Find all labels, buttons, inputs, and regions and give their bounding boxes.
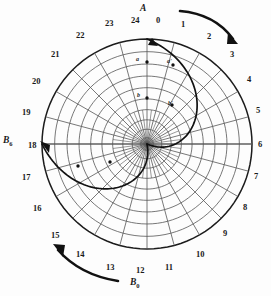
figure-canvas: aa'bb'0123456789101112131415161718192021… [0,0,271,296]
hour-label-23: 23 [105,19,114,28]
hour-label-12: 12 [136,266,145,275]
grid-spoke-15 [73,144,147,218]
hour-label-20: 20 [32,77,41,86]
point-label-b: b [137,92,140,98]
grid-spoke-13 [120,144,147,245]
label-A: A [140,4,146,14]
grid-spoke-23 [120,43,147,144]
grid-spoke-9 [147,144,221,218]
grid-spoke-11 [147,144,174,245]
hour-label-3: 3 [230,50,234,59]
hour-label-10: 10 [196,250,205,259]
hour-label-11: 11 [165,263,173,272]
outer-arrow-top-right-head [227,32,238,44]
hour-label-14: 14 [76,250,85,259]
spiral-left-point-1 [76,164,79,167]
grid-spoke-8 [147,144,238,197]
outer-arrow-bottom-left-head [53,244,65,257]
hour-label-18: 18 [28,141,37,150]
hour-label-6: 6 [258,140,262,149]
hour-label-5: 5 [256,106,260,115]
polar-diagram-svg [0,0,271,296]
point-marker-a [145,60,148,63]
spiral-arm-left [42,144,148,189]
hour-label-13: 13 [106,263,115,272]
hour-label-9: 9 [223,229,227,238]
hour-label-0: 0 [156,16,160,25]
grid-spoke-4 [147,92,238,145]
label-B6: B6 [3,136,13,147]
label-B6-sub: 6 [9,140,12,147]
hour-label-21: 21 [51,50,60,59]
hour-label-16: 16 [33,204,42,213]
hour-label-8: 8 [243,203,247,212]
grid-spoke-19 [46,117,147,144]
grid-spoke-5 [147,117,248,144]
hour-label-2: 2 [207,32,211,41]
point-marker-b [145,96,148,99]
point-label-a: a [136,56,139,62]
spiral-left-point-2 [108,160,111,163]
grid-spoke-7 [147,144,248,171]
hour-label-17: 17 [22,173,31,182]
hour-label-22: 22 [76,31,85,40]
hour-label-19: 19 [22,108,31,117]
grid-spoke-2 [147,53,200,144]
grid-spoke-3 [147,70,221,144]
grid-spoke-22 [95,53,148,144]
hour-label-1: 1 [181,20,185,29]
hour-label-7: 7 [254,172,258,181]
grid-spoke-21 [73,70,147,144]
hour-label-15: 15 [51,231,60,240]
label-B0: B0 [130,278,140,289]
point-label-aprime: a' [167,58,172,64]
grid-spoke-10 [147,144,200,235]
grid-spoke-17 [46,144,147,171]
label-B0-sub: 0 [136,282,139,289]
point-label-bprime: b' [168,100,173,106]
hour-label-24: 24 [131,16,140,25]
grid-spoke-20 [56,92,147,145]
hour-label-4: 4 [247,75,251,84]
